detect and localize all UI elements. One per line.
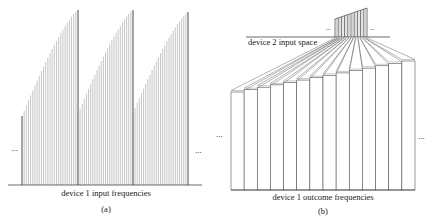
panel-a-ellipsis-right: ... [195,145,202,155]
panel-b-input-label: device 2 input space [248,37,317,47]
figure: ... ... device 1 input frequencies (a) .… [0,0,428,219]
panel-b-ellipsis-left: ... [216,129,223,139]
panel-b-small-ellipsis-right: ... [370,25,375,31]
panel-b-ellipsis-right: ... [418,131,425,141]
panel-a-input-frequencies: ... ... device 1 input frequencies (a) [8,10,202,214]
panel-a-ellipsis-left: ... [11,143,18,153]
panel-b-small-ellipsis-left: ... [326,25,331,31]
figure-svg: ... ... device 1 input frequencies (a) .… [0,0,428,219]
panel-a-sawtooth-histogram [22,10,188,185]
panel-b-outcome-bars [231,60,415,191]
panel-b-input-space-histogram [335,8,367,37]
panel-b-outcome-frequencies: ... ... device 2 input space ... ... dev… [216,8,425,216]
panel-b-sublabel: (b) [318,206,328,216]
panel-a-sublabel: (a) [101,204,111,214]
panel-b-axis-label: device 1 outcome frequencies [272,192,373,202]
panel-a-axis-label: device 1 input frequencies [61,188,150,198]
